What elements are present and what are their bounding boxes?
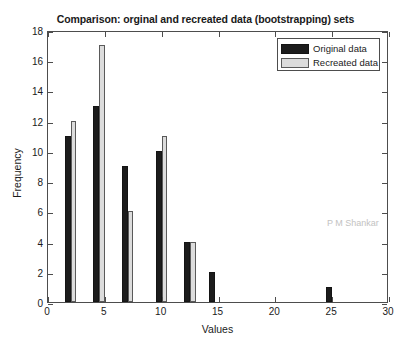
x-tick-mark	[48, 32, 49, 37]
x-tick-label: 5	[84, 306, 124, 317]
y-axis-title: Frequency	[11, 128, 23, 218]
y-tick-label: 6	[3, 207, 43, 218]
y-tick-mark	[48, 92, 53, 93]
bar-recreated	[71, 121, 77, 302]
y-tick-label: 8	[3, 177, 43, 188]
bar-recreated	[128, 211, 134, 302]
chart-title: Comparison: orginal and recreated data (…	[0, 13, 411, 25]
x-tick-mark	[162, 297, 163, 302]
x-tick-label: 0	[27, 306, 67, 317]
x-tick-mark	[332, 297, 333, 302]
watermark-text: P M Shankar	[327, 218, 379, 228]
y-tick-label: 2	[3, 267, 43, 278]
y-tick-label: 10	[3, 146, 43, 157]
y-tick-mark	[48, 304, 53, 305]
legend-swatch-recreated-icon	[281, 58, 309, 68]
bar-recreated	[190, 242, 196, 302]
x-tick-label: 25	[311, 306, 351, 317]
legend-entry-recreated: Recreated data	[281, 56, 376, 69]
y-tick-mark	[48, 213, 53, 214]
x-tick-mark	[219, 32, 220, 37]
x-tick-mark	[389, 297, 390, 302]
x-tick-label: 10	[141, 306, 181, 317]
x-tick-mark	[48, 297, 49, 302]
y-tick-label: 4	[3, 237, 43, 248]
x-tick-mark	[389, 32, 390, 37]
y-tick-mark	[382, 244, 387, 245]
y-tick-label: 18	[3, 26, 43, 37]
x-axis-tick-labels: 051015202530	[47, 306, 388, 322]
plot-area	[48, 32, 387, 302]
y-tick-mark	[48, 62, 53, 63]
y-tick-mark	[48, 274, 53, 275]
y-tick-mark	[382, 274, 387, 275]
plot-box	[47, 31, 388, 303]
x-tick-mark	[219, 297, 220, 302]
legend-entry-original: Original data	[281, 42, 376, 55]
x-tick-label: 15	[198, 306, 238, 317]
x-tick-mark	[275, 32, 276, 37]
y-tick-mark	[382, 123, 387, 124]
x-tick-label: 20	[254, 306, 294, 317]
y-tick-mark	[382, 213, 387, 214]
y-tick-mark	[382, 153, 387, 154]
bar-original	[209, 272, 215, 302]
y-tick-mark	[382, 32, 387, 33]
x-tick-mark	[332, 32, 333, 37]
x-tick-mark	[162, 32, 163, 37]
y-tick-mark	[48, 153, 53, 154]
y-tick-mark	[382, 304, 387, 305]
x-tick-mark	[275, 297, 276, 302]
x-tick-label: 30	[368, 306, 408, 317]
x-tick-mark	[105, 297, 106, 302]
x-tick-mark	[105, 32, 106, 37]
y-tick-mark	[382, 183, 387, 184]
legend-label-recreated: Recreated data	[313, 57, 378, 68]
y-tick-mark	[48, 183, 53, 184]
y-tick-label: 14	[3, 86, 43, 97]
y-tick-mark	[382, 92, 387, 93]
x-axis-title: Values	[47, 323, 388, 335]
y-tick-mark	[48, 244, 53, 245]
legend-label-original: Original data	[313, 43, 367, 54]
chart-figure: Comparison: orginal and recreated data (…	[0, 0, 411, 358]
y-tick-mark	[48, 123, 53, 124]
bar-recreated	[162, 136, 168, 302]
y-tick-mark	[382, 62, 387, 63]
bar-recreated	[99, 45, 105, 302]
y-tick-label: 12	[3, 116, 43, 127]
chart-legend: Original data Recreated data	[277, 38, 380, 71]
y-tick-label: 16	[3, 56, 43, 67]
legend-swatch-original-icon	[281, 44, 309, 54]
